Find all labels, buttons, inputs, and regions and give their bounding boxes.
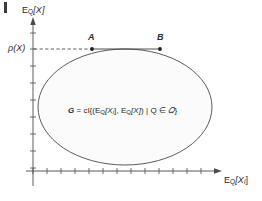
point-a-label: A bbox=[88, 33, 95, 42]
x-axis-label-close: ] bbox=[246, 175, 249, 185]
x-axis-arrowhead bbox=[214, 168, 222, 173]
diagram-svg bbox=[0, 0, 262, 201]
set-definition-equation: G = cl{(EQ[Xi], EQ[X]) | Q ∈ 𝑄} bbox=[68, 106, 177, 116]
y-axis-arrowhead bbox=[30, 17, 35, 25]
x-axis-label-bracket: [X bbox=[235, 175, 244, 185]
point-b-marker bbox=[158, 47, 162, 51]
figure-canvas: EQ[X] EQ[Xi] ρ(X) A B G = cl{(EQ[Xi], EQ… bbox=[0, 0, 262, 201]
eq-in-symbol: ∈ bbox=[159, 106, 166, 115]
x-axis-label: EQ[Xi] bbox=[224, 176, 248, 186]
point-a-marker bbox=[90, 47, 94, 51]
y-axis-label: EQ[X] bbox=[22, 6, 45, 16]
eq-close-brace: } bbox=[174, 106, 177, 115]
eq-close-paren: ) bbox=[141, 106, 144, 115]
eq-term1-arg: [X bbox=[105, 106, 113, 115]
eq-member: Q bbox=[150, 106, 156, 115]
eq-term2-arg: [X] bbox=[131, 106, 141, 115]
point-b-label: B bbox=[157, 33, 164, 42]
eq-lhs: G bbox=[68, 106, 74, 115]
rho-axis-value-label: ρ(X) bbox=[8, 44, 25, 53]
eq-divider: | bbox=[146, 106, 148, 115]
y-axis-label-bracket: [X] bbox=[33, 5, 44, 15]
eq-comma: , bbox=[116, 106, 118, 115]
eq-equals: = bbox=[77, 106, 82, 115]
